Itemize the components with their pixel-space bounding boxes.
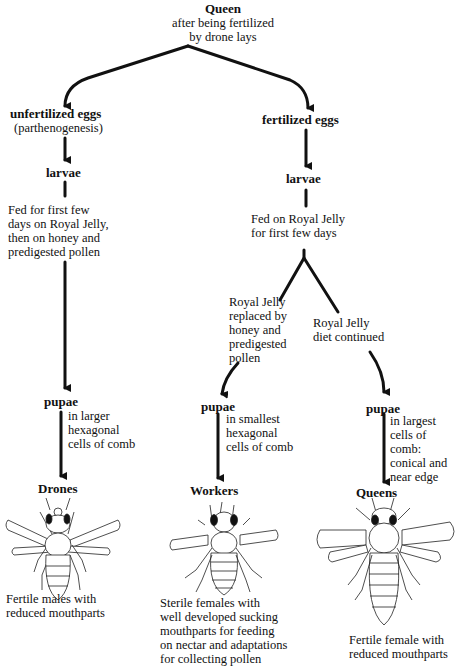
feeding-line: Fed for first few bbox=[8, 203, 109, 217]
unfertilized-eggs-label: unfertilized eggs bbox=[10, 107, 101, 121]
feeding-line: predigested pollen bbox=[8, 245, 109, 259]
queen-bee-icon bbox=[317, 498, 454, 625]
diet-line: replaced by bbox=[229, 309, 287, 323]
worker-pupae-note: in smallest hexagonal cells of comb bbox=[226, 412, 293, 454]
queen-subtitle: after being fertilized by drone lays bbox=[128, 16, 318, 44]
left-pupae-label: pupae bbox=[44, 395, 78, 409]
pupae-note-line: comb: bbox=[390, 442, 447, 456]
arrow-to-queen-pupae bbox=[370, 352, 384, 392]
pupae-note-line: near edge bbox=[390, 470, 447, 484]
description-line: reduced mouthparts bbox=[6, 606, 105, 620]
fertilized-eggs-label: fertilized eggs bbox=[262, 113, 339, 127]
arrow-split-worker bbox=[280, 250, 304, 300]
parthenogenesis-note: (parthenogenesis) bbox=[14, 121, 103, 135]
drones-description: Fertile males with reduced mouthparts bbox=[6, 592, 105, 620]
arrow-split-queen bbox=[304, 258, 338, 312]
description-line: on nectar and adaptations bbox=[160, 638, 287, 652]
left-larvae-label: larvae bbox=[46, 166, 81, 180]
queen-diet-note: Royal Jelly diet continued bbox=[313, 316, 384, 344]
arrow-queen-to-fertilized bbox=[188, 46, 308, 108]
pupae-note-line: conical and bbox=[390, 456, 447, 470]
description-line: well developed sucking bbox=[160, 610, 287, 624]
pupae-note-line: cells of bbox=[390, 428, 447, 442]
pupae-note-line: in larger bbox=[68, 409, 135, 423]
description-line: reduced mouthparts bbox=[349, 647, 448, 661]
worker-diet-note: Royal Jelly replaced by honey and predig… bbox=[229, 295, 287, 365]
queen-title: Queen bbox=[168, 2, 278, 16]
diet-line: honey and bbox=[229, 323, 287, 337]
description-line: mouthparts for feeding bbox=[160, 624, 287, 638]
pupae-note-line: in smallest bbox=[226, 412, 293, 426]
right-larvae-label: larvae bbox=[286, 172, 321, 186]
description-line: Fertile female with bbox=[349, 633, 448, 647]
arrow-to-worker-pupae bbox=[222, 363, 238, 394]
workers-description: Sterile females with well developed suck… bbox=[160, 596, 287, 666]
diet-line: pollen bbox=[229, 351, 287, 365]
queens-description: Fertile female with reduced mouthparts bbox=[349, 633, 448, 661]
right-feeding-note: Fed on Royal Jelly for first few days bbox=[251, 212, 345, 240]
queens-label: Queens bbox=[356, 486, 397, 500]
diet-line: predigested bbox=[229, 337, 287, 351]
diet-line: Royal Jelly bbox=[229, 295, 287, 309]
description-line: for collecting pollen bbox=[160, 652, 287, 666]
description-line: Fertile males with bbox=[6, 592, 105, 606]
queen-pupae-note: in largest cells of comb: conical and ne… bbox=[390, 414, 447, 484]
feeding-line: Fed on Royal Jelly bbox=[251, 212, 345, 226]
feeding-line: days on Royal Jelly, bbox=[8, 217, 109, 231]
arrow-queen-to-unfertilized bbox=[65, 46, 188, 106]
worker-bee-icon bbox=[170, 502, 278, 595]
pupae-note-line: hexagonal bbox=[226, 426, 293, 440]
feeding-line: for first few days bbox=[251, 226, 345, 240]
description-line: Sterile females with bbox=[160, 596, 287, 610]
feeding-line: then on honey and bbox=[8, 231, 109, 245]
diet-line: diet continued bbox=[313, 330, 384, 344]
subtitle-line: by drone lays bbox=[128, 30, 318, 44]
pupae-note-line: hexagonal bbox=[68, 423, 135, 437]
pupae-note-line: cells of comb bbox=[68, 437, 135, 451]
pupae-note-line: cells of comb bbox=[226, 440, 293, 454]
drones-label: Drones bbox=[38, 482, 77, 496]
subtitle-line: after being fertilized bbox=[128, 16, 318, 30]
diet-line: Royal Jelly bbox=[313, 316, 384, 330]
left-pupae-note: in larger hexagonal cells of comb bbox=[68, 409, 135, 451]
left-feeding-note: Fed for first few days on Royal Jelly, t… bbox=[8, 203, 109, 259]
workers-label: Workers bbox=[190, 484, 238, 498]
drone-bee-icon bbox=[6, 498, 120, 600]
pupae-note-line: in largest bbox=[390, 414, 447, 428]
